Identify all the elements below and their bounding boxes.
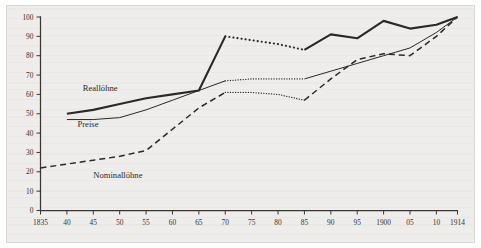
series-2 [67,17,458,120]
x-tick-label: 05 [406,218,414,227]
x-tick-label: 65 [195,218,203,227]
y-tick-label: 50 [26,109,34,118]
y-tick-label: 0 [30,206,34,215]
series-segment-gap [225,79,304,81]
x-tick-label: 1835 [33,218,48,227]
series-segment-tail [304,17,457,79]
series-segment-main [41,92,226,167]
y-tick-label: 60 [26,90,34,99]
series-segment-main [67,36,225,113]
y-tick-label: 40 [26,129,34,138]
x-tick-label: 70 [222,218,230,227]
x-tick-label: 85 [301,218,309,227]
y-tick-label: 100 [22,13,33,22]
y-tick-label: 20 [26,167,34,176]
x-tick-label: 40 [63,218,71,227]
y-tick-label: 70 [26,71,34,80]
y-axis-tick-labels: 0102030405060708090100 [22,13,33,216]
x-tick-label: 10 [433,218,441,227]
series-segment-tail [304,17,457,100]
x-tick-label: 55 [142,218,150,227]
x-tick-label: 75 [248,218,256,227]
x-tick-label: 45 [90,218,98,227]
y-tick-label: 10 [26,187,34,196]
chart-page: 0102030405060708090100 18354045505560657… [0,0,481,248]
line-chart: 0102030405060708090100 18354045505560657… [0,0,481,248]
y-tick-label: 80 [26,51,34,60]
x-tick-label: 50 [116,218,124,227]
x-tick-label: 1914 [450,218,465,227]
series-label-3: Nominallöhne [93,170,142,180]
x-tick-label: 1900 [376,218,391,227]
y-tick-label: 30 [26,148,34,157]
series-label-1: Reallöhne [83,83,118,93]
series-segment-gap [225,36,304,50]
x-tick-label: 60 [169,218,177,227]
y-tick-label: 90 [26,32,34,41]
series-annotations: ReallöhnePreiseNominallöhne [77,83,142,180]
x-tick-label: 95 [354,218,362,227]
x-tick-label: 90 [327,218,335,227]
series-label-2: Preise [77,119,98,129]
x-tick-label: 80 [274,218,282,227]
